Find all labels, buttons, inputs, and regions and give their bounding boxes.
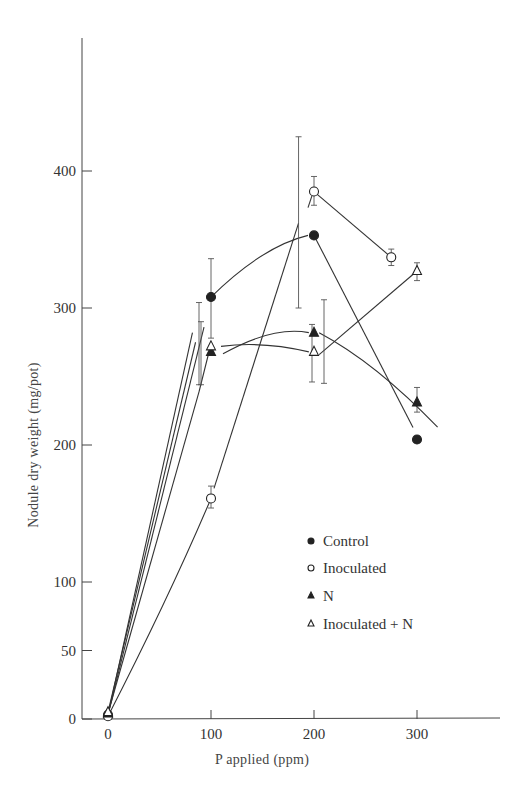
legend: ControlInoculatedNInoculated + N	[308, 533, 413, 632]
series-curve	[108, 333, 192, 715]
series-curve	[223, 331, 309, 354]
x-tick-label: 0	[104, 726, 112, 742]
legend-item: N	[308, 588, 334, 604]
legend-item: Control	[308, 533, 369, 549]
open-circle-marker	[310, 187, 319, 196]
x-axis-title: P applied (ppm)	[215, 752, 309, 768]
series-curve	[199, 352, 209, 392]
axes: 0501002003004000100200300	[54, 38, 501, 742]
y-tick-label: 200	[54, 437, 77, 453]
open-triangle-marker	[308, 620, 314, 626]
filled-circle-marker	[207, 293, 216, 302]
open-triangle-marker	[413, 266, 422, 275]
series-curve	[308, 196, 312, 208]
filled-triangle-marker	[413, 397, 422, 406]
legend-label: N	[323, 588, 334, 604]
filled-circle-marker	[413, 435, 422, 444]
series-curve	[108, 327, 204, 715]
series-curve	[214, 223, 299, 488]
series-curve	[314, 235, 413, 427]
series-curve	[319, 271, 417, 355]
series-curves	[108, 192, 438, 717]
legend-item: Inoculated + N	[308, 616, 413, 632]
y-axis-title: Nodule dry weight (mg/pot)	[26, 362, 42, 527]
y-tick-label: 400	[54, 163, 77, 179]
open-triangle-marker	[207, 341, 216, 350]
y-tick-label: 0	[69, 711, 77, 727]
x-tick-label: 200	[303, 726, 326, 742]
filled-circle-marker	[308, 538, 314, 544]
legend-item: Inoculated	[308, 560, 387, 576]
series-curve	[108, 392, 199, 714]
filled-triangle-marker	[308, 592, 314, 598]
x-tick-label: 300	[406, 726, 429, 742]
y-tick-label: 300	[54, 300, 77, 316]
y-tick-label: 100	[54, 574, 77, 590]
open-triangle-marker	[310, 346, 319, 355]
filled-circle-marker	[310, 231, 319, 240]
open-circle-marker	[308, 565, 314, 571]
filled-triangle-marker	[310, 327, 319, 336]
series-curve	[211, 235, 308, 297]
open-circle-marker	[207, 494, 216, 503]
x-axis-line	[82, 718, 500, 719]
legend-label: Control	[323, 533, 369, 549]
legend-label: Inoculated + N	[323, 616, 413, 632]
data-markers	[104, 187, 422, 721]
open-circle-marker	[387, 253, 396, 262]
series-curve	[319, 333, 437, 428]
nodule-weight-chart: 0501002003004000100200300 ControlInocula…	[0, 0, 531, 801]
legend-label: Inoculated	[323, 560, 387, 576]
x-tick-label: 100	[200, 726, 223, 742]
y-tick-label: 50	[61, 643, 76, 659]
series-curve	[314, 192, 391, 258]
error-bars	[196, 137, 420, 508]
